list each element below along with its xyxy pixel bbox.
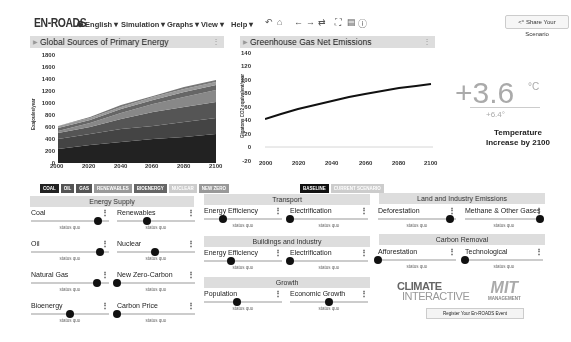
forward-icon[interactable]: → [306, 17, 315, 27]
slider-technological[interactable]: Technological⋮status quo [465, 248, 543, 278]
more-icon[interactable]: ⋮ [187, 239, 195, 248]
legend-baseline[interactable]: BASELINE [300, 184, 329, 193]
more-icon[interactable]: ⋮ [448, 206, 456, 215]
legend-current-scenario[interactable]: CURRENT SCENARIO [331, 184, 384, 193]
slider-bioenergy[interactable]: Bioenergy⋮status quo [31, 302, 109, 332]
more-icon[interactable]: ⋮ [448, 247, 456, 256]
more-icon[interactable]: ⋮ [212, 36, 220, 48]
energy-chart-title: Global Sources of Primary Energy [40, 37, 169, 47]
help-menu[interactable]: Help ▾ [231, 20, 253, 29]
legend-oil[interactable]: OIL [61, 184, 75, 193]
slider-handle[interactable] [227, 257, 235, 265]
share-icon: <° [518, 19, 526, 25]
slider-transport-efficiency[interactable]: Energy Efficiency⋮status quo [204, 207, 282, 237]
slider-handle[interactable] [96, 248, 104, 256]
emissions-chart-title: Greenhouse Gas Net Emissions [250, 37, 371, 47]
view-menu[interactable]: View ▾ [201, 20, 224, 29]
more-icon[interactable]: ⋮ [101, 301, 109, 310]
more-icon[interactable]: ⋮ [101, 270, 109, 279]
mit-management-logo[interactable]: MIT MANAGEMENT [488, 280, 521, 301]
info-icon[interactable]: ⓘ [358, 17, 367, 30]
section-growth: Growth [204, 277, 370, 288]
legend-bioenergy[interactable]: BIOENERGY [134, 184, 167, 193]
slider-economic-growth[interactable]: Economic Growth⋮status quo [290, 290, 368, 320]
expand-icon[interactable]: ▶ [243, 36, 248, 48]
fullscreen-icon[interactable]: ⛶ [335, 17, 341, 28]
more-icon[interactable]: ⋮ [274, 289, 282, 298]
slider-population[interactable]: Population⋮status quo [204, 290, 282, 320]
more-icon[interactable]: ⋮ [274, 206, 282, 215]
slider-buildings-efficiency[interactable]: Energy Efficiency⋮status quo [204, 249, 282, 279]
graphs-menu[interactable]: Graphs ▾ [167, 20, 199, 29]
legend-renewables[interactable]: RENEWABLES [94, 184, 132, 193]
slider-handle[interactable] [93, 279, 101, 287]
register-event-button[interactable]: Register Your En-ROADS Event [426, 308, 524, 319]
simulation-menu[interactable]: Simulation ▾ [121, 20, 165, 29]
back-icon[interactable]: ← [294, 17, 303, 27]
legend-gas[interactable]: GAS [76, 184, 92, 193]
table-icon[interactable]: ▤ [347, 17, 356, 27]
legend-new-zero[interactable]: NEW ZERO [199, 184, 229, 193]
slider-methane[interactable]: Methane & Other Gases⋮status quo [465, 207, 543, 237]
slider-new-zero-carbon[interactable]: New Zero-Carbon⋮status quo [117, 271, 195, 301]
slider-handle[interactable] [94, 217, 102, 225]
globe-icon: 🌐︎ [77, 20, 85, 29]
more-icon[interactable]: ⋮ [101, 208, 109, 217]
slider-handle[interactable] [536, 215, 544, 223]
slider-handle[interactable] [151, 248, 159, 256]
legend-nuclear[interactable]: NUCLEAR [169, 184, 197, 193]
slider-natural-gas[interactable]: Natural Gas⋮status quo [31, 271, 109, 301]
emissions-legend: BASELINECURRENT SCENARIO [300, 176, 386, 194]
slider-renewables[interactable]: Renewables⋮status quo [117, 209, 195, 239]
slider-handle[interactable] [374, 256, 382, 264]
slider-handle[interactable] [286, 257, 294, 265]
temperature-label: Temperature Increase by 2100 [478, 128, 558, 148]
more-icon[interactable]: ⋮ [423, 36, 431, 48]
energy-chart-header: ▶ Global Sources of Primary Energy ⋮ [30, 36, 224, 48]
reset-icon[interactable]: ⌂ [277, 17, 282, 27]
temperature-fahrenheit: +6.4° [486, 110, 505, 119]
share-scenario-button[interactable]: <° Share Your Scenario [505, 15, 569, 29]
section-buildings-industry: Buildings and Industry [204, 236, 370, 247]
climate-interactive-logo[interactable]: CLIMATE INTERACTIVE [397, 281, 469, 301]
top-bar: EN-ROADS 🌐︎ English ▾ Simulation ▾ Graph… [0, 0, 571, 36]
more-icon[interactable]: ⋮ [274, 248, 282, 257]
more-icon[interactable]: ⋮ [535, 247, 543, 256]
slider-handle[interactable] [113, 279, 121, 287]
slider-afforestation[interactable]: Afforestation⋮status quo [378, 248, 456, 278]
slider-handle[interactable] [286, 215, 294, 223]
legend-coal[interactable]: COAL [40, 184, 59, 193]
more-icon[interactable]: ⋮ [187, 208, 195, 217]
slider-handle[interactable] [113, 310, 121, 318]
slider-deforestation[interactable]: Deforestation⋮status quo [378, 207, 456, 237]
slider-handle[interactable] [143, 217, 151, 225]
slider-transport-electrification[interactable]: Electrification⋮status quo [290, 207, 368, 237]
emissions-chart: Gigatons CO2 equivalent/year 140 120 100… [235, 48, 445, 173]
language-menu[interactable]: 🌐︎ English ▾ [77, 20, 118, 30]
slider-oil[interactable]: Oil⋮status quo [31, 240, 109, 270]
more-icon[interactable]: ⋮ [360, 206, 368, 215]
slider-handle[interactable] [219, 215, 227, 223]
slider-handle[interactable] [325, 298, 333, 306]
expand-icon[interactable]: ▶ [33, 36, 38, 48]
slider-handle[interactable] [461, 256, 469, 264]
slider-coal[interactable]: Coal⋮status quo [31, 209, 109, 239]
slider-handle[interactable] [233, 298, 241, 306]
more-icon[interactable]: ⋮ [187, 270, 195, 279]
slider-buildings-electrification[interactable]: Electrification⋮status quo [290, 249, 368, 279]
compare-icon[interactable]: ⇄ [318, 17, 326, 27]
section-energy-supply: Energy Supply [30, 196, 194, 207]
slider-carbon-price[interactable]: Carbon Price⋮status quo [117, 302, 195, 332]
undo-icon[interactable]: ↶ [265, 17, 273, 27]
more-icon[interactable]: ⋮ [187, 301, 195, 310]
section-carbon-removal: Carbon Removal [379, 234, 545, 245]
temperature-value: +3.6 [455, 76, 514, 110]
more-icon[interactable]: ⋮ [360, 248, 368, 257]
more-icon[interactable]: ⋮ [360, 289, 368, 298]
slider-handle[interactable] [446, 215, 454, 223]
section-transport: Transport [204, 194, 370, 205]
slider-nuclear[interactable]: Nuclear⋮status quo [117, 240, 195, 270]
more-icon[interactable]: ⋮ [535, 206, 543, 215]
more-icon[interactable]: ⋮ [101, 239, 109, 248]
slider-handle[interactable] [66, 310, 74, 318]
